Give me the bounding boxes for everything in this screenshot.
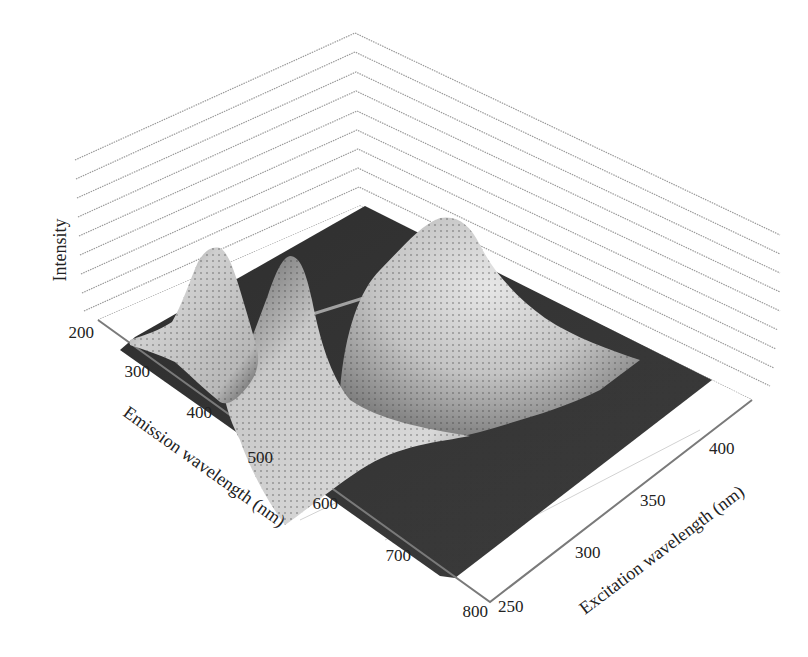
x-tick: 500: [248, 448, 274, 467]
y-tick: 350: [640, 491, 666, 510]
x-tick: 800: [463, 602, 489, 621]
x-tick: 600: [313, 494, 339, 513]
y-tick: 300: [575, 543, 601, 562]
eem-surface-chart: Intensity 200 300 400 500 600 700 800 Em…: [0, 0, 808, 657]
z-axis-label: Intensity: [50, 219, 70, 282]
y-tick: 400: [709, 439, 735, 458]
x-tick: 700: [386, 546, 412, 565]
x-tick: 300: [125, 362, 151, 381]
y-tick: 250: [498, 597, 524, 616]
x-tick: 400: [187, 403, 213, 422]
x-tick: 200: [69, 323, 95, 342]
